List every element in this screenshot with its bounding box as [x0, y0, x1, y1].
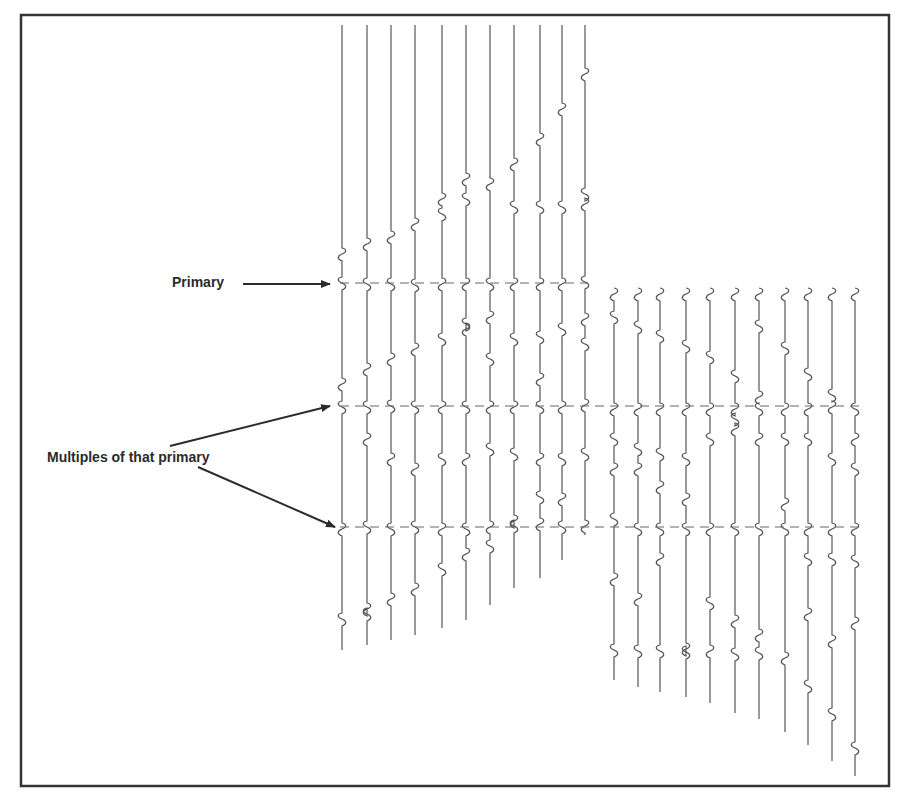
left-gather-trace	[363, 25, 371, 645]
left-gather-trace	[338, 25, 346, 650]
right-gather-trace	[804, 288, 812, 745]
multiple-1-arrow	[170, 406, 330, 446]
right-gather-trace	[682, 288, 690, 697]
left-gather-trace	[510, 25, 518, 588]
right-gather-trace	[610, 288, 618, 680]
right-gather-trace	[851, 288, 859, 776]
left-gather-trace	[387, 25, 395, 640]
left-gather-trace	[536, 25, 544, 578]
right-gather-trace	[634, 288, 642, 687]
annotation-arrows	[170, 284, 335, 527]
right-gather-trace	[656, 288, 664, 692]
reflection-alignment-lines	[340, 283, 862, 527]
left-gather-trace	[486, 25, 494, 605]
right-gather-trace	[755, 288, 763, 719]
right-trace-gather	[610, 288, 859, 776]
left-gather-trace	[558, 25, 566, 560]
left-gather-trace	[438, 25, 446, 628]
left-trace-gather	[338, 25, 589, 650]
multiple-2-arrow	[198, 467, 335, 527]
left-gather-trace	[581, 25, 589, 535]
right-gather-trace	[706, 288, 714, 703]
seismic-gather-figure	[0, 0, 912, 799]
left-gather-trace	[411, 25, 419, 635]
right-gather-trace	[828, 288, 836, 761]
right-gather-trace	[731, 288, 739, 713]
primary-label: Primary	[172, 274, 224, 290]
multiples-label: Multiples of that primary	[47, 449, 210, 465]
left-gather-trace	[462, 25, 470, 620]
right-gather-trace	[781, 288, 789, 732]
